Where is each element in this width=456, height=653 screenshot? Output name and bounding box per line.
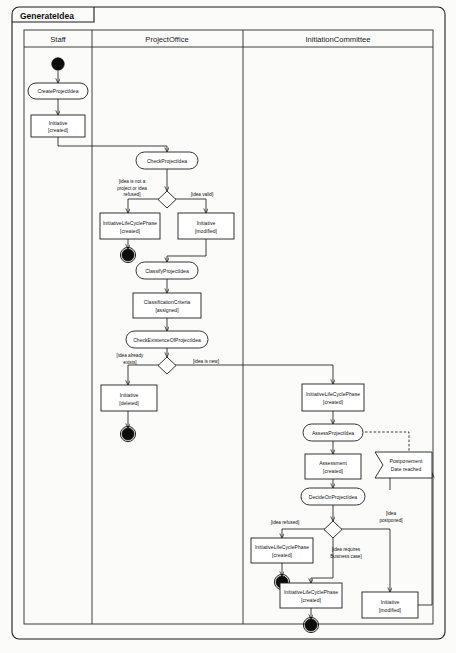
node-end-ic-business[interactable] [303,617,318,632]
node-label-line1: InitiativeLifeCyclePhase [103,220,157,226]
node-label-line1: Assessment [319,460,347,466]
node-label-line2: [deleted] [119,400,139,406]
node-label-line2: [created] [323,468,343,474]
node-ilcp-business-case[interactable]: InitiativeLifeCyclePhase [created] [280,583,342,608]
node-start[interactable] [52,58,64,70]
node-label-line2: [assigned] [155,307,179,313]
node-label-line2: [created] [272,552,292,558]
node-label: CheckExistenceOfProjectIdea [133,337,201,343]
node-label-line2: [created] [323,399,343,405]
node-label-line1: Initiative [120,392,139,398]
node-label-line2: [created] [301,597,321,603]
node-label-line1: Initiative [49,120,68,126]
node-assess-project-idea[interactable]: AssessProjectIdea [303,424,363,441]
guard-line1: [idea requires [332,547,361,552]
guard-line1: [idea refused] [271,520,299,525]
activity-frame: GenerateIdea [12,7,445,639]
activity-diagram-canvas: GenerateIdea Staff ProjectOffice Initiat… [0,0,456,653]
node-label-line2: [created] [120,228,140,234]
guard-idea-business-case: [idea requires Business case] [330,547,362,559]
node-postponement-signal[interactable]: Postponement Date reached [375,452,432,478]
guard-line2: Business case] [330,554,362,559]
node-label-line2: Date reached [391,466,422,472]
node-check-existence[interactable]: CheckExistenceOfProjectIdea [126,331,208,348]
guard-line1: [idea [386,511,397,516]
node-label-line1: Initiative [381,599,400,605]
guard-line1: [idea already [117,353,144,358]
node-decision-decide[interactable] [324,521,342,538]
node-label-line1: Initiative [197,220,216,226]
node-label-line1: InitiativeLifeCyclePhase [255,544,309,550]
guard-idea-postponed: [idea postponed] [379,511,402,523]
guard-idea-new: [idea is new] [193,359,219,364]
guard-idea-refused: [idea refused] [271,520,299,525]
guard-line2: postponed] [379,518,402,523]
guard-line2: project or idea [117,186,147,191]
node-ilcp-created-ic[interactable]: InitiativeLifeCyclePhase [created] [302,384,364,411]
node-label-line1: InitiativeLifeCyclePhase [306,391,360,397]
node-check-project-idea[interactable]: CheckProjectIdea [136,152,198,169]
node-initiative-deleted[interactable]: Initiative [deleted] [101,385,157,411]
lane-header-staff: Staff [50,35,66,44]
node-assessment-created[interactable]: Assessment [created] [305,454,361,479]
guard-line1: [idea is new] [193,359,219,364]
node-ilcp-created-po[interactable]: InitiativeLifeCyclePhase [created] [100,213,160,239]
node-label-line1: ClassificationCriteria [144,299,191,305]
node-initiative-modified-po[interactable]: Initiative [modified] [178,213,234,239]
guard-not-project: [idea is not a project or idea refused] [117,179,147,197]
node-label: CheckProjectIdea [147,158,187,164]
guard-idea-exists: [idea already exists] [117,353,144,365]
node-label: DecideOnProjectIdea [309,494,358,500]
node-label-line2: [modified] [195,228,218,234]
node-end-po-refused[interactable] [120,247,135,262]
node-label-line1: Postponement [390,458,423,464]
node-label-line1: InitiativeLifeCyclePhase [284,589,338,595]
node-initiative-modified-ic[interactable]: Initiative [modified] [362,592,418,618]
guard-line1: [idea is not a [119,179,146,184]
control-flow-edges [58,71,432,619]
lane-header-projectoffice: ProjectOffice [145,35,188,44]
node-label: CreateProjectIdea [37,88,78,94]
node-decision-check[interactable] [158,191,176,208]
node-label-line2: [modified] [379,607,402,613]
guard-line3: refused] [124,192,141,197]
lane-headers: Staff ProjectOffice InitiationCommittee [50,35,370,44]
guard-line2: exists] [123,360,136,365]
node-end-po-exists[interactable] [120,426,135,441]
node-classification-criteria[interactable]: ClassificationCriteria [assigned] [133,293,201,318]
guard-line1: [idea valid] [191,192,213,197]
node-label: AssessProjectIdea [312,430,354,436]
node-label: ClassifyProjectIdea [145,268,189,274]
node-decide-on-project-idea[interactable]: DecideOnProjectIdea [301,488,365,505]
lane-header-initiationcommittee: InitiationCommittee [306,35,371,44]
diagram-title: GenerateIdea [20,11,74,21]
node-classify-project-idea[interactable]: ClassifyProjectIdea [136,262,198,279]
node-initiative-created[interactable]: Initiative [created] [31,115,85,137]
node-create-project-idea[interactable]: CreateProjectIdea [28,83,88,99]
node-decision-existence[interactable] [158,357,176,374]
guard-idea-valid: [idea valid] [191,192,213,197]
node-ilcp-refused[interactable]: InitiativeLifeCyclePhase [created] [251,538,313,563]
node-label-line2: [created] [48,127,68,133]
